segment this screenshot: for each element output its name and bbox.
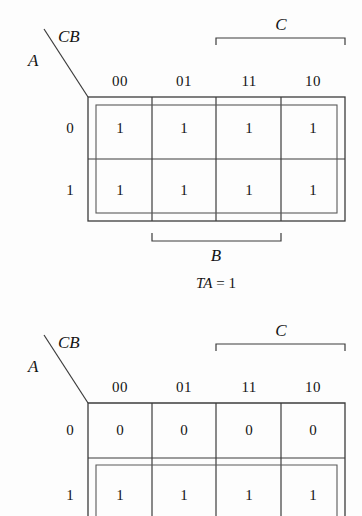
column-header-01: 01 [176, 380, 192, 395]
cell-r1-c01: 1 [180, 183, 188, 198]
cell-r0-c00: 0 [116, 423, 124, 438]
cell-r1-c10: 1 [309, 488, 317, 503]
bracket-c-top [216, 38, 345, 45]
corner-label-rows-a: A [28, 358, 38, 375]
column-header-10: 10 [305, 74, 321, 89]
kmap-second-graphics [0, 303, 362, 516]
cell-r1-c10: 1 [309, 183, 317, 198]
row-header-0: 0 [66, 121, 74, 136]
column-header-00: 00 [112, 380, 128, 395]
row-header-0: 0 [66, 423, 74, 438]
row-header-1: 1 [66, 183, 74, 198]
cell-r1-c01: 1 [180, 488, 188, 503]
cell-r0-c01: 1 [180, 121, 188, 136]
cell-r0-c00: 1 [116, 121, 124, 136]
kmap-first-graphics [0, 0, 362, 300]
corner-label-rows-a: A [28, 52, 38, 69]
bracket-c-label: C [275, 322, 286, 339]
cell-r0-c11: 1 [245, 121, 253, 136]
cell-r1-c00: 1 [116, 488, 124, 503]
caption-operator: = [216, 275, 224, 291]
row-header-1: 1 [66, 488, 74, 503]
column-header-11: 11 [241, 74, 256, 89]
cell-r1-c11: 1 [245, 183, 253, 198]
cell-r0-c10: 0 [309, 423, 317, 438]
caption-expr: TA [196, 275, 212, 291]
column-header-00: 00 [112, 74, 128, 89]
cell-r0-c01: 0 [180, 423, 188, 438]
cell-r1-c11: 1 [245, 488, 253, 503]
kmap-first-caption: TA = 1 [196, 276, 236, 291]
cell-r0-c11: 0 [245, 423, 253, 438]
kmap-second: CB A C 00 01 11 10 0 1 0 0 0 0 1 1 1 1 [0, 303, 362, 516]
bracket-b-label: B [211, 247, 221, 264]
cell-r1-c00: 1 [116, 183, 124, 198]
column-header-10: 10 [305, 380, 321, 395]
column-header-11: 11 [241, 380, 256, 395]
corner-label-columns-cb: CB [58, 334, 80, 351]
bracket-c-top [216, 344, 345, 351]
bracket-c-label: C [275, 16, 286, 33]
corner-label-columns-cb: CB [58, 28, 80, 45]
column-header-01: 01 [176, 74, 192, 89]
caption-value: 1 [228, 275, 236, 291]
kmap-first: CB A C 00 01 11 10 0 1 1 1 1 1 1 1 1 1 B… [0, 0, 362, 300]
cell-r0-c10: 1 [309, 121, 317, 136]
bracket-b-bottom [152, 233, 281, 241]
